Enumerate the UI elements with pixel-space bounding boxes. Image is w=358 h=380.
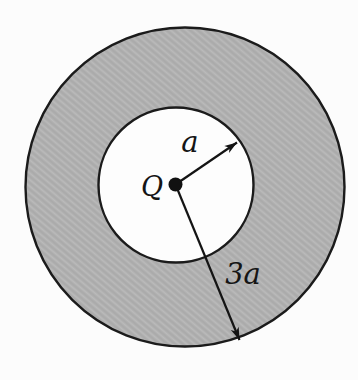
shell-charge-diagram: Q a 3a [0,0,358,380]
charge-dot [169,178,183,192]
inner-radius-label: a [181,125,198,159]
outer-radius-label: 3a [225,257,261,291]
charge-label: Q [141,171,163,202]
figure-canvas: Q a 3a [0,0,358,380]
